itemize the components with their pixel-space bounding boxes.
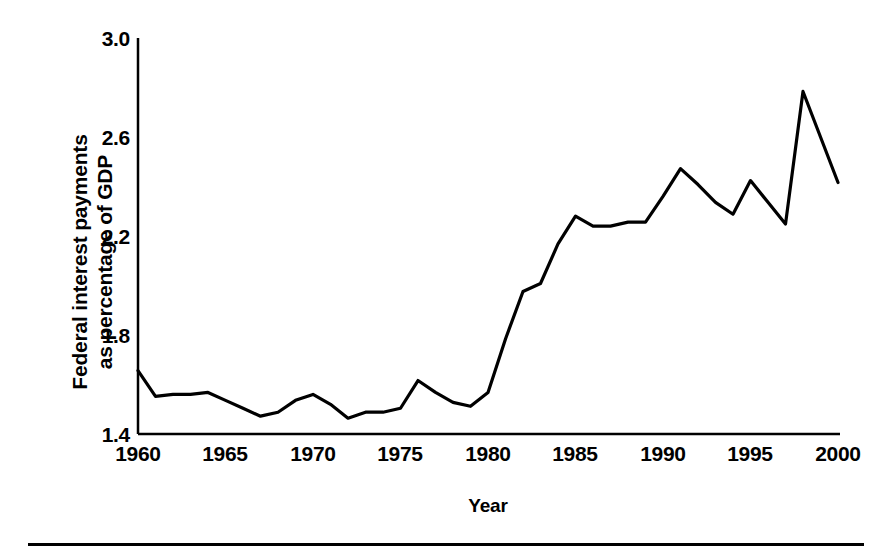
footer-divider bbox=[28, 543, 864, 546]
data-series-line bbox=[138, 91, 838, 418]
x-axis-title: Year bbox=[138, 495, 838, 517]
chart-figure: Federal interest payments as percentage … bbox=[0, 0, 887, 559]
plot-area bbox=[0, 0, 887, 559]
